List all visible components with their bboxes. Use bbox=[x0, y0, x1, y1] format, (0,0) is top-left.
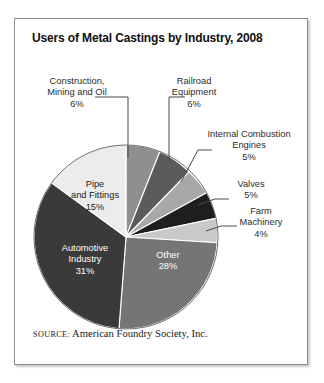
callout-railroad-equipment: Railroad Equipment 6% bbox=[151, 76, 237, 110]
callout-railroad-line3: 6% bbox=[151, 99, 237, 110]
callout-farm-line2: Machinery bbox=[223, 217, 299, 228]
slice-label-pipe-line2: and Fittings bbox=[53, 190, 137, 201]
callout-construction-line1: Construction, bbox=[25, 76, 129, 87]
slice-label-automotive-industry: Automotive Industry 31% bbox=[43, 243, 127, 277]
callout-valves-line1: Valves bbox=[215, 179, 287, 190]
callout-farm-line3: 4% bbox=[223, 229, 299, 240]
callout-construction-mining-and-oil: Construction, Mining and Oil 6% bbox=[25, 76, 129, 110]
slice-label-automotive-line3: 31% bbox=[43, 266, 127, 277]
source-value: American Foundry Society, Inc. bbox=[70, 328, 208, 339]
callout-farm-line1: Farm bbox=[223, 206, 299, 217]
callout-engines-line1: Internal Combustion bbox=[195, 129, 303, 140]
slice-label-pipe-and-fittings: Pipe and Fittings 15% bbox=[53, 179, 137, 213]
pie-slices bbox=[34, 145, 218, 329]
slice-label-other-line2: 28% bbox=[139, 261, 197, 272]
slice-label-pipe-line3: 15% bbox=[53, 202, 137, 213]
callout-engines-line2: Engines bbox=[195, 140, 303, 151]
callout-valves: Valves 5% bbox=[215, 179, 287, 202]
slice-label-pipe-line1: Pipe bbox=[53, 179, 137, 190]
slice-label-automotive-line2: Industry bbox=[43, 254, 127, 265]
callout-internal-combustion-engines: Internal Combustion Engines 5% bbox=[195, 129, 303, 163]
slice-label-automotive-line1: Automotive bbox=[43, 243, 127, 254]
slice-label-other-line1: Other bbox=[139, 250, 197, 261]
callout-construction-line3: 6% bbox=[25, 99, 129, 110]
callout-construction-line2: Mining and Oil bbox=[25, 87, 129, 98]
slice-label-other: Other 28% bbox=[139, 250, 197, 273]
callout-railroad-line1: Railroad bbox=[151, 76, 237, 87]
source-label: SOURCE: bbox=[33, 330, 70, 339]
callout-farm-machinery: Farm Machinery 4% bbox=[223, 206, 299, 240]
figure-frame: Users of Metal Castings by Industry, 200… bbox=[14, 18, 308, 365]
callout-valves-line2: 5% bbox=[215, 190, 287, 201]
callout-engines-line3: 5% bbox=[195, 152, 303, 163]
source-line: SOURCE: American Foundry Society, Inc. bbox=[33, 328, 208, 339]
callout-railroad-line2: Equipment bbox=[151, 87, 237, 98]
